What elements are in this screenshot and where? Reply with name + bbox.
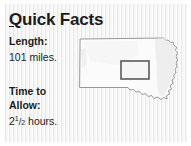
south-dakota-map-svg (77, 35, 187, 107)
fact-length-label: Length: (9, 34, 77, 48)
fact-length: Length: 101 miles. (9, 34, 77, 65)
eastern-region-shading (155, 38, 176, 97)
fact-time-label: Time to Allow: (9, 84, 77, 112)
fact-length-value: 101 miles. (9, 50, 77, 65)
page-title: Quick Facts (9, 10, 103, 30)
title-mnemonic-letter: Q (9, 10, 22, 29)
title-rest: uick Facts (22, 10, 103, 29)
quick-facts-panel: Quick Facts Length: 101 miles. Time to A… (0, 0, 191, 146)
fact-time-value: 21/2 hours. (9, 114, 77, 130)
panel-content: Quick Facts Length: 101 miles. Time to A… (0, 0, 191, 146)
highlight-rectangle[interactable] (121, 61, 149, 79)
fraction-unit: hours. (25, 115, 57, 127)
fact-time-to-allow: Time to Allow: 21/2 hours. (9, 84, 77, 130)
western-region-shading (81, 48, 87, 68)
state-map (77, 35, 187, 107)
